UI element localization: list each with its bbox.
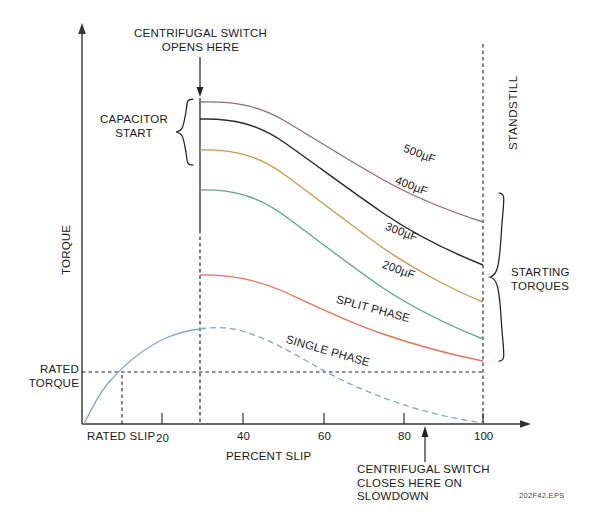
curve-400uf [200, 119, 483, 265]
starting-torques-brace [490, 193, 504, 361]
x-tick-label-40: 40 [237, 430, 250, 444]
x-tick-label-60: 60 [318, 430, 331, 444]
curve-200uf [200, 190, 483, 339]
curve-500uf [200, 102, 483, 222]
switch-closes-arrow [422, 426, 429, 462]
capacitor-start-brace [176, 99, 193, 165]
x-tick-label-80: 80 [398, 430, 411, 444]
x-tick-label-20: 20 [156, 432, 169, 446]
curve-single-phase-dashed [200, 328, 483, 423]
annotation-switch-opens: CENTRIFUGAL SWITCH OPENS HERE [108, 27, 293, 54]
figure-credit: 202F42.EPS [519, 492, 565, 501]
curve-single-phase-solid [84, 329, 200, 424]
annotation-starting-torques: STARTING TORQUES [511, 266, 595, 293]
x-axis [82, 420, 531, 428]
switch-opens-arrow [197, 57, 204, 97]
torque-slip-diagram: CENTRIFUGAL SWITCH OPENS HERE CAPACITOR … [0, 0, 600, 529]
rated-slip-label: RATED SLIP [87, 430, 155, 444]
rated-torque-label: RATED TORQUE [25, 363, 79, 390]
x-tick-label-100: 100 [474, 430, 493, 444]
annotation-standstill: STANDSTILL [507, 75, 521, 150]
y-axis [78, 23, 86, 424]
x-axis-label: PERCENT SLIP [226, 450, 311, 464]
y-axis-label: TORQUE [60, 225, 74, 275]
curve-300uf [200, 150, 483, 302]
annotation-switch-closes: CENTRIFUGAL SWITCH CLOSES HERE ON SLOWDO… [357, 463, 532, 504]
x-axis-ticks [162, 413, 483, 424]
annotation-capacitor-start: CAPACITOR START [95, 113, 173, 140]
